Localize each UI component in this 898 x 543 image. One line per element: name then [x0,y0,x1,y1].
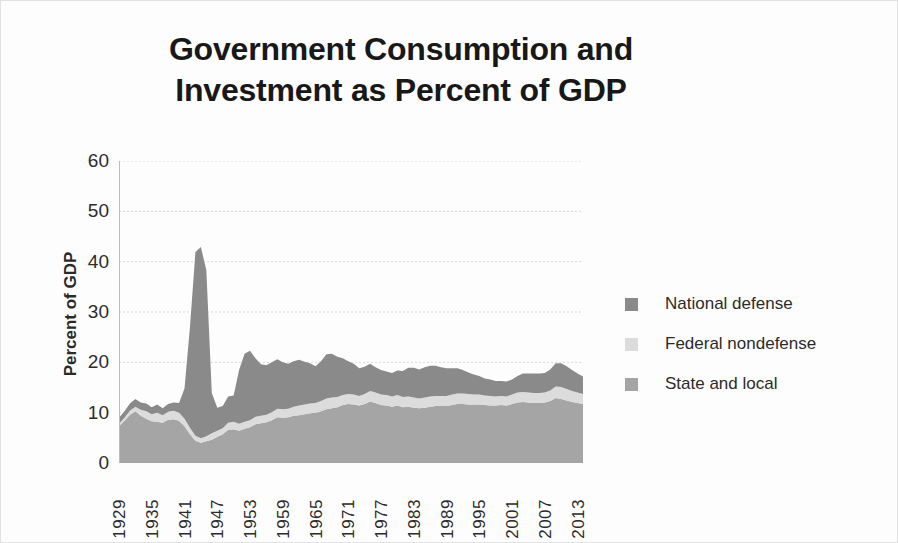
x-tick-label: 1977 [372,499,392,539]
stacked-area-chart [119,161,583,463]
legend-item-label: State and local [665,374,777,394]
legend-item-label: National defense [665,294,793,314]
legend-item: National defense [625,284,887,324]
x-tick-label: 1983 [405,499,425,539]
y-tick-label: 10 [63,403,109,422]
plot-area [119,161,583,463]
title-line-2: Investment as Percent of GDP [71,70,731,111]
page-title: Government Consumption and Investment as… [71,29,731,111]
series-layers [119,247,583,463]
legend-swatch-national-defense [625,298,638,311]
x-axis-tick-labels: 1929193519411947195319591965197119771983… [119,467,583,539]
x-tick-label: 1989 [438,499,458,539]
x-tick-label: 1947 [208,499,228,539]
x-tick-label: 1971 [339,499,359,539]
legend: National defenseFederal nondefenseState … [625,284,887,404]
x-tick-label: 2007 [536,499,556,539]
x-tick-label: 1935 [143,499,163,539]
title-line-1: Government Consumption and [71,29,731,70]
y-tick-label: 20 [63,352,109,371]
y-tick-label: 30 [63,302,109,321]
y-tick-label: 50 [63,201,109,220]
x-tick-label: 1995 [470,499,490,539]
x-tick-label: 1953 [241,499,261,539]
y-tick-label: 40 [63,252,109,271]
x-tick-label: 1941 [176,499,196,539]
x-tick-label: 1965 [307,499,327,539]
legend-item: State and local [625,364,887,404]
legend-item-label: Federal nondefense [665,334,816,354]
legend-swatch-federal-nondefense [625,338,638,351]
x-tick-label: 2001 [503,499,523,539]
x-tick-label: 1959 [274,499,294,539]
legend-swatch-state-and-local [625,378,638,391]
chart-page: Government Consumption and Investment as… [0,0,898,543]
y-axis-tick-labels: 6050403020100 [57,161,109,463]
x-tick-label: 1929 [110,499,130,539]
x-tick-label: 2013 [569,499,589,539]
y-tick-label: 0 [63,453,109,472]
legend-item: Federal nondefense [625,324,887,364]
y-tick-label: 60 [63,151,109,170]
